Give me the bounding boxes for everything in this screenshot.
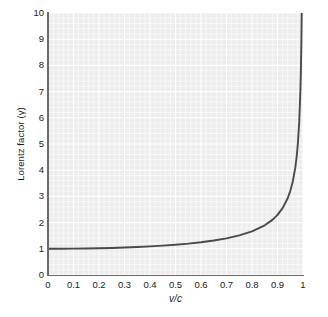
plot-area	[48, 13, 303, 275]
y-tick-label: 9	[27, 34, 44, 44]
y-tick-label: 10	[27, 8, 44, 18]
x-axis-line	[47, 275, 304, 277]
x-axis-title: v/c	[48, 293, 303, 305]
y-tick-label: 4	[27, 165, 44, 175]
y-axis-title: Lorentz factor (γ)	[14, 13, 28, 275]
plot-svg	[48, 13, 303, 275]
y-tick-label: 6	[27, 113, 44, 123]
x-tick-label: 1	[288, 279, 318, 291]
y-tick-label: 3	[27, 191, 44, 201]
y-tick-label: 2	[27, 218, 44, 228]
y-axis-line	[47, 12, 49, 276]
y-tick-label: 8	[27, 60, 44, 70]
lorentz-factor-curve	[48, 13, 302, 249]
y-axis-tick-labels: 012345678910	[27, 0, 44, 317]
lorentz-factor-chart: Lorentz factor (γ) 012345678910 00.10.20…	[0, 0, 328, 317]
major-gridlines	[48, 13, 303, 275]
x-axis-tick-labels: 00.10.20.30.40.50.60.70.80.91	[0, 279, 328, 291]
y-tick-label: 5	[27, 139, 44, 149]
y-tick-label: 1	[27, 244, 44, 254]
y-tick-label: 7	[27, 87, 44, 97]
